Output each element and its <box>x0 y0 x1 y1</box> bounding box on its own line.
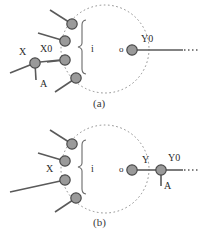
panel-b-input-edges <box>10 130 76 212</box>
fault-node-a[interactable] <box>30 58 40 68</box>
panel-a-output-port-label: o <box>119 44 124 54</box>
fault-to-port-edge-a <box>40 60 60 62</box>
input-node-b-3[interactable] <box>60 175 70 185</box>
panel-a-bracket-label: i <box>91 43 94 54</box>
input-group-brace-a <box>78 20 86 74</box>
panel-a-x0-label: X0 <box>40 43 52 54</box>
input-edge-b-3 <box>10 180 65 192</box>
panel-b-caption: (b) <box>93 216 106 228</box>
input-node-b-2[interactable] <box>60 156 70 166</box>
panel-b-y-label: Y <box>142 154 149 165</box>
panel-a-caption: (a) <box>93 97 105 109</box>
input-node-b-1[interactable] <box>67 139 77 149</box>
panel-b-bracket-label: i <box>91 163 94 174</box>
panel-b-y0-label: Y0 <box>168 152 180 163</box>
fault-node-b[interactable] <box>156 165 166 175</box>
input-node-b-4[interactable] <box>71 193 81 203</box>
panel-b-x-label: X <box>46 163 53 174</box>
panel-a-a-label: A <box>40 78 47 89</box>
panel-b-a-label: A <box>164 180 171 191</box>
input-group-brace-b <box>78 140 86 194</box>
input-node-a-3[interactable] <box>60 55 70 65</box>
panel-b-nodes <box>60 139 166 203</box>
input-node-a-1[interactable] <box>67 19 77 29</box>
panel-a-y0-label: Y0 <box>141 33 153 44</box>
output-node-b[interactable] <box>127 165 137 175</box>
figure-container: X X0 A i o Y0 (a) X <box>0 0 203 240</box>
panel-a-x-label: X <box>19 46 26 57</box>
panel-b-output-port-label: o <box>119 164 124 174</box>
output-node-a[interactable] <box>127 45 137 55</box>
input-node-a-2[interactable] <box>60 36 70 46</box>
input-node-a-4[interactable] <box>71 73 81 83</box>
